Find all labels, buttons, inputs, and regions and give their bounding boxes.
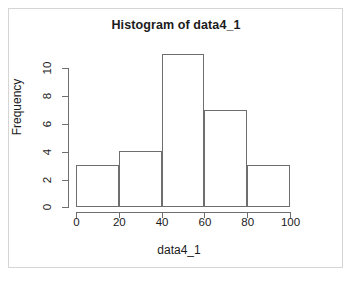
chart-title: Histogram of data4_1 <box>0 18 352 32</box>
x-tick-label-60: 60 <box>185 216 225 228</box>
histogram-bar-bin-4 <box>204 110 247 207</box>
x-tick-label-0: 0 <box>57 216 97 228</box>
y-tick-label-10: 10 <box>41 55 53 81</box>
x-tick-label-100: 100 <box>271 216 311 228</box>
y-tick-2 <box>62 180 68 181</box>
y-tick-0 <box>62 207 68 208</box>
y-axis-line <box>68 68 69 208</box>
x-tick-label-40: 40 <box>142 216 182 228</box>
histogram-bar-bin-3 <box>162 54 205 207</box>
y-axis-title: Frequency <box>10 52 24 162</box>
y-tick-label-2: 2 <box>41 167 53 193</box>
y-tick-10 <box>62 68 68 69</box>
x-axis-line <box>76 212 291 213</box>
y-tick-label-8: 8 <box>41 83 53 109</box>
y-tick-label-6: 6 <box>41 111 53 137</box>
histogram-bar-bin-5 <box>247 165 290 207</box>
y-tick-6 <box>62 124 68 125</box>
x-tick-label-80: 80 <box>228 216 268 228</box>
y-tick-label-4: 4 <box>41 139 53 165</box>
x-axis-title: data4_1 <box>68 243 290 257</box>
histogram-bar-bin-2 <box>119 151 162 207</box>
y-tick-8 <box>62 96 68 97</box>
y-tick-label-0: 0 <box>41 194 53 220</box>
x-tick-label-20: 20 <box>99 216 139 228</box>
y-tick-4 <box>62 152 68 153</box>
histogram-plot: Histogram of data4_1 Frequency data4_1 1… <box>0 0 352 285</box>
histogram-bar-bin-1 <box>76 165 119 207</box>
